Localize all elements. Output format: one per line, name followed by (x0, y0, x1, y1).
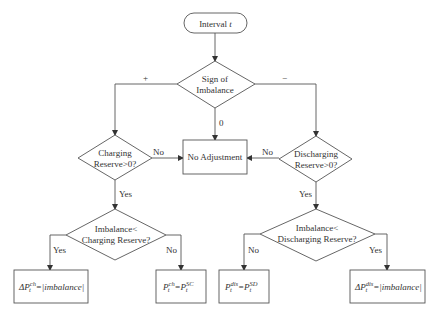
edge-label-imb-ch-no: No (166, 245, 177, 255)
delta-ch-rhs: =|imbalance| (36, 282, 85, 292)
edge-label-imb-dis-yes: Yes (369, 245, 383, 255)
node-no-adjustment: No Adjustment (183, 140, 247, 174)
edge-label-charging-no: No (153, 147, 164, 157)
edge-label-zero: 0 (219, 118, 224, 128)
node-discharging-reserve: Discharging Reserve>0? (279, 136, 352, 182)
edge-label-plus: + (143, 73, 148, 83)
edge-label-imb-dis-no: No (248, 245, 259, 255)
sign-line2: Imbalance (196, 85, 233, 95)
imb-dis-line2: Discharging Reserve? (277, 234, 356, 244)
discharging-reserve-line1: Discharging (294, 149, 338, 159)
node-imbalance-lt-charging: Imbalance< Charging Reserve? (66, 209, 166, 260)
imb-ch-line2: Charging Reserve? (82, 235, 151, 245)
interval-label: Interval (199, 19, 229, 29)
charging-reserve-line1: Charging (98, 148, 132, 158)
edge-label-charging-yes: Yes (119, 189, 133, 199)
edge-label-discharging-yes: Yes (299, 189, 313, 199)
svg-text:ΔPcht=|imbalance|: ΔPcht=|imbalance| (18, 280, 84, 293)
discharging-reserve-line2: Reserve>0? (295, 160, 338, 170)
edge-sign-minus (255, 84, 316, 136)
svg-text:ΔPdist=|imbalance|: ΔPdist=|imbalance| (354, 280, 422, 293)
edge-label-discharging-no: No (262, 147, 273, 157)
svg-text:Interval t: Interval t (199, 19, 232, 29)
imb-ch-line1: Imbalance< (95, 224, 138, 234)
delta-dis-rhs: =|imbalance| (373, 282, 422, 292)
flowchart: + − 0 No No Yes Yes Yes No No Yes Interv… (0, 0, 438, 319)
edge-label-minus: − (282, 73, 287, 83)
node-sign-of-imbalance: Sign of Imbalance (177, 61, 255, 108)
node-delta-p-charging: ΔPcht=|imbalance| (14, 270, 88, 303)
node-interval: Interval t (184, 13, 247, 33)
edge-label-imb-ch-yes: Yes (53, 245, 67, 255)
node-p-charging-eq-sc: Pcht=PSCt (156, 270, 206, 303)
node-imbalance-lt-discharging: Imbalance< Discharging Reserve? (260, 209, 375, 261)
node-charging-reserve: Charging Reserve>0? (78, 135, 152, 180)
sign-line1: Sign of (202, 74, 228, 84)
node-p-discharging-eq-sd: Pdist=PSDt (219, 270, 269, 303)
node-delta-p-discharging: ΔPdist=|imbalance| (350, 270, 425, 303)
charging-reserve-line2: Reserve>0? (94, 159, 137, 169)
edge-sign-plus (115, 84, 177, 135)
imb-dis-line1: Imbalance< (296, 223, 339, 233)
no-adjustment-label: No Adjustment (188, 152, 243, 162)
